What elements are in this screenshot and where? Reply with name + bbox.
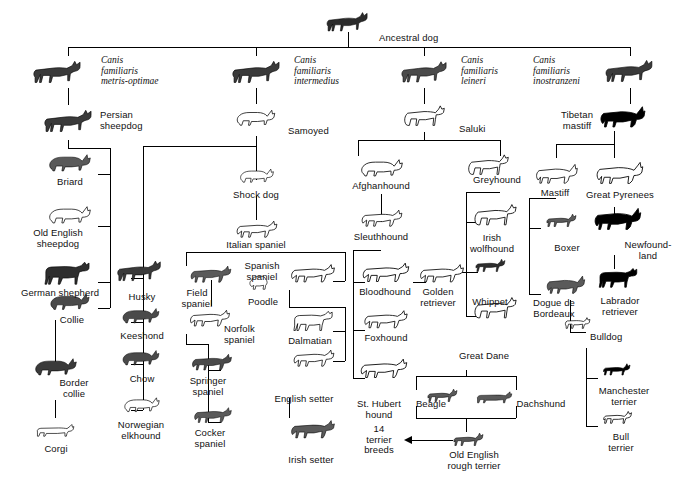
label-italian-spaniel: Italian spaniel (226, 240, 286, 251)
label-bulldog: Bulldog (590, 332, 622, 343)
figure-ancestral-dog (315, 8, 381, 34)
line-saluki-trunk (424, 132, 425, 140)
figure-italian-spaniel (232, 215, 282, 241)
line-intermedius-to-samoyed (256, 88, 257, 104)
figure-corgi (34, 418, 78, 442)
figure-briard (44, 148, 96, 176)
line-branch-collie (98, 308, 110, 309)
line-terrier-arrow-shaft (410, 440, 453, 441)
label-labrador-retriever: Labrador retriever (601, 296, 640, 317)
line-branch-boxer (529, 228, 541, 229)
figure-dalmatian (288, 306, 338, 332)
figure-saluki (398, 100, 450, 128)
terrier-arrow-head (404, 436, 412, 444)
figure-dachshund (472, 386, 518, 408)
line-bulldog-trunk (586, 348, 587, 426)
line-root-stem (348, 32, 349, 47)
label-tibetan-mastiff: Tibetan mastiff (561, 110, 593, 131)
figure-irish-wolfhound (468, 198, 522, 228)
figure-norwegian-elkhound (120, 392, 164, 416)
line-tibetan-trunk (614, 131, 615, 144)
line-norfolk-trunk (186, 334, 187, 344)
label-shock-dog: Shock dog (233, 190, 279, 201)
label-foxhound: Foxhound (364, 333, 407, 344)
figure-dogue-de-bordeaux (543, 270, 589, 298)
figure-english-setter (288, 344, 340, 370)
figure-shock-dog (236, 163, 278, 187)
label-dachshund: Dachshund (517, 399, 566, 410)
label-husky: Husky (129, 292, 156, 303)
label-bloodhound: Bloodhound (359, 287, 411, 298)
figure-spanish-spaniel (286, 258, 340, 286)
label-keeshond: Keeshond (120, 331, 164, 342)
label-bull-terrier: Bull terrier (608, 432, 634, 453)
label-great-dane: Great Dane (459, 351, 509, 362)
label-persian-sheepdog: Persian sheepdog (100, 110, 143, 131)
figure-springer-spaniel (188, 348, 236, 374)
label-ancestral-dog: Ancestral dog (379, 33, 438, 44)
label-norfolk-spaniel: Norfolk spaniel (224, 324, 255, 345)
figure-whippet (472, 254, 516, 278)
label-st-hubert-hound: St. Hubert hound (357, 399, 401, 420)
label-newfoundland: Newfound- land (625, 240, 672, 261)
label-greyhound: Greyhound (473, 175, 521, 186)
figure-metris-optimae (28, 56, 88, 86)
line-norfolk-fanout (186, 344, 208, 345)
figure-mastiff (532, 158, 582, 188)
figure-irish-setter (286, 414, 340, 442)
label-old-english-rough-terrier: Old English rough terrier (447, 450, 500, 471)
scientific-name-leineri: Canis familiaris leineri (461, 55, 498, 87)
label-manchester-terrier: Manchester terrier (599, 386, 650, 407)
line-drop-intermedius (256, 47, 257, 56)
label-saluki: Saluki (459, 124, 485, 135)
line-left-trunk (110, 148, 111, 308)
figure-old-english-sheepdog (44, 200, 96, 228)
figure-samoyed (232, 103, 280, 131)
line-mastiff-trunk (529, 198, 530, 294)
line-greyhound-top (466, 192, 500, 193)
label-mastiff: Mastiff (541, 188, 570, 199)
label-golden-retriever: Golden retriever (420, 287, 456, 308)
label-collie: Collie (60, 315, 84, 326)
label-beagle: Beagle (416, 399, 446, 410)
line-mastiff-drop (556, 144, 557, 158)
label-corgi: Corgi (44, 444, 67, 455)
figure-great-pyrenees (592, 156, 648, 188)
figure-foxhound (360, 304, 412, 332)
scientific-name-metris-optimae: Canis familiaris metris-optimae (101, 55, 159, 87)
cropped-header-text (160, 0, 161, 6)
line-branch-manchester (586, 378, 598, 379)
line-persian-trunk (68, 140, 69, 148)
label-irish-setter: Irish setter (288, 455, 334, 466)
label-german-shepherd: German shepherd (21, 288, 99, 299)
line-spanish-down (289, 290, 290, 307)
figure-tibetan-mastiff (596, 100, 650, 132)
line-samoyed-trunk (256, 136, 257, 146)
figure-keeshond (118, 302, 164, 328)
line-border-to-corgi (55, 400, 56, 418)
scientific-name-inostranzeni: Canis familiaris inostranzeni (533, 55, 580, 87)
label-sleuthhound: Sleuthhound (354, 232, 408, 243)
figure-st-hubert-hound (356, 352, 412, 382)
figure-bloodhound (358, 256, 414, 286)
figure-bull-terrier (600, 406, 642, 430)
figure-field-spaniel (186, 260, 236, 286)
line-branch-oldenglish (98, 226, 110, 227)
label-field-spaniel: Field spaniel (182, 288, 213, 309)
figure-inostranzeni (602, 54, 658, 86)
line-branch-germanshepherd (98, 282, 110, 283)
figure-boxer (543, 208, 587, 234)
line-spanish-right-trunk (345, 252, 346, 281)
line-drop-leineri (424, 47, 425, 56)
line-greyhound-trunk (466, 192, 467, 316)
line-tibetan-fanout (556, 144, 614, 145)
line-samoyed-fanout (143, 146, 256, 147)
label-poodle: Poodle (248, 297, 278, 308)
label-14-terrier-breeds: 14 terrier breeds (364, 424, 394, 456)
figure-afghanhound (356, 152, 408, 182)
label-chow: Chow (130, 374, 155, 385)
line-sleuth-top (353, 250, 381, 251)
figure-golden-retriever (414, 258, 470, 286)
line-italian-fanout (186, 252, 345, 253)
line-dalmatian-right (345, 307, 346, 361)
